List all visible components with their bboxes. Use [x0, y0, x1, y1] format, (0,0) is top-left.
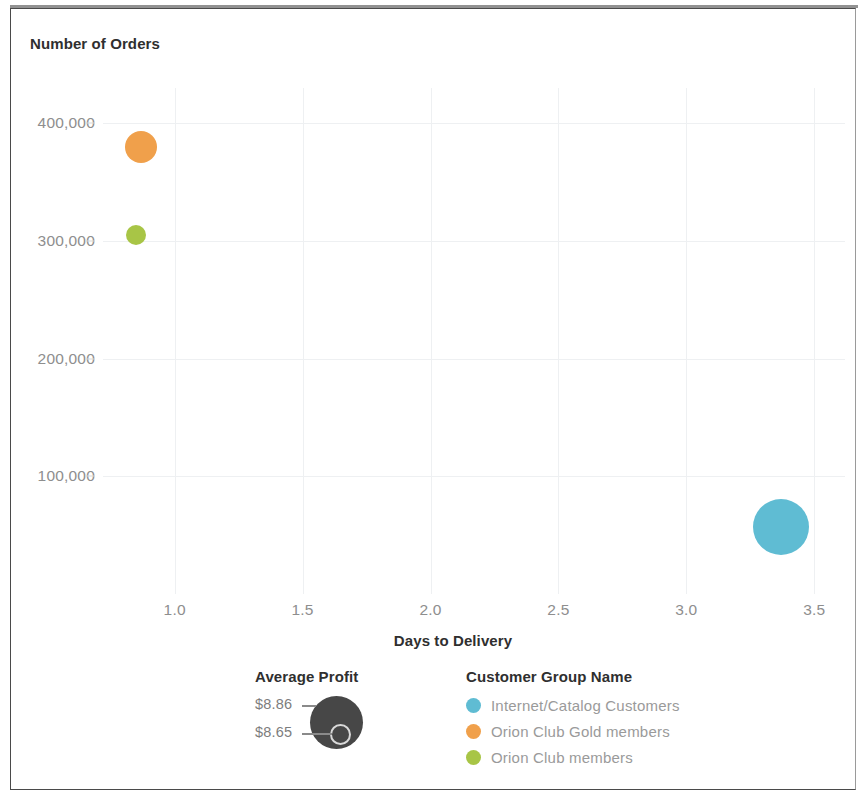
legend-item-label: Internet/Catalog Customers	[491, 697, 680, 714]
y-axis-title: Number of Orders	[30, 35, 160, 52]
gridline-horizontal	[103, 241, 845, 242]
y-axis-tick-mark	[86, 358, 95, 359]
x-axis-tick-label: 2.0	[419, 601, 441, 619]
legend-swatch-icon	[466, 724, 481, 739]
size-legend-graphic: $8.86 $8.65	[255, 694, 435, 758]
x-axis-ticks: 1.01.52.02.53.03.5	[103, 601, 845, 625]
size-legend-max-label: $8.86	[255, 696, 292, 712]
size-legend-small-circle	[330, 724, 351, 745]
plot-area	[103, 88, 845, 594]
gridline-horizontal	[103, 476, 845, 477]
data-bubble[interactable]	[753, 499, 809, 555]
y-axis-tick-mark	[86, 123, 95, 124]
color-legend-title: Customer Group Name	[466, 668, 746, 685]
gridline-horizontal	[103, 123, 845, 124]
y-axis-ticks: 400,000300,000200,000100,000	[0, 88, 95, 594]
gridline-vertical	[431, 88, 432, 594]
data-bubble[interactable]	[125, 131, 157, 163]
legend-item-label: Orion Club Gold members	[491, 723, 670, 740]
data-bubble[interactable]	[126, 225, 146, 245]
size-legend-min-label: $8.65	[255, 724, 292, 740]
legend-item[interactable]: Internet/Catalog Customers	[466, 692, 746, 718]
x-axis-tick-label: 3.5	[803, 601, 825, 619]
legend-swatch-icon	[466, 750, 481, 765]
x-axis-title-text: Days to Delivery	[394, 632, 512, 649]
x-axis-tick-label: 3.0	[675, 601, 697, 619]
y-axis-tick-mark	[86, 240, 95, 241]
color-legend-items: Internet/Catalog CustomersOrion Club Gol…	[466, 692, 746, 770]
x-axis-title: Days to Delivery	[0, 632, 858, 649]
x-axis-tick-label: 1.0	[164, 601, 186, 619]
size-legend: Average Profit $8.86 $8.65	[255, 668, 435, 758]
y-axis-tick-mark	[86, 476, 95, 477]
x-axis-tick-label: 1.5	[291, 601, 313, 619]
gridline-vertical	[303, 88, 304, 594]
size-legend-leader-small	[302, 733, 332, 735]
size-legend-leader-large	[302, 705, 316, 707]
gridline-vertical	[686, 88, 687, 594]
gridline-vertical	[175, 88, 176, 594]
legend-swatch-icon	[466, 698, 481, 713]
legend-item[interactable]: Orion Club members	[466, 744, 746, 770]
legend-item-label: Orion Club members	[491, 749, 633, 766]
x-axis-tick-label: 2.5	[547, 601, 569, 619]
legend-item[interactable]: Orion Club Gold members	[466, 718, 746, 744]
color-legend: Customer Group Name Internet/Catalog Cus…	[466, 668, 746, 770]
size-legend-title: Average Profit	[255, 668, 435, 685]
gridline-vertical	[558, 88, 559, 594]
gridline-horizontal	[103, 359, 845, 360]
gridline-vertical	[814, 88, 815, 594]
bubble-chart-screenshot: Number of Orders 400,000300,000200,00010…	[0, 0, 858, 806]
